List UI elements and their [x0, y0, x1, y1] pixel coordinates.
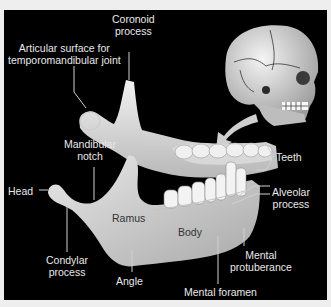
label-body: Body	[178, 226, 202, 238]
label-alveolar-process: Alveolar process	[272, 186, 310, 210]
label-angle: Angle	[116, 275, 143, 287]
label-ramus: Ramus	[112, 212, 145, 224]
label-line: Alveolar	[272, 186, 310, 198]
label-coronoid-process: Coronoid process	[112, 13, 155, 37]
label-articular-surface: Articular surface for temporomandibular …	[8, 42, 121, 66]
label-line: protuberance	[230, 261, 292, 273]
label-line: Condylar	[46, 254, 88, 266]
label-mandibular-notch: Mandibular notch	[64, 138, 116, 162]
label-line: temporomandibular joint	[8, 54, 121, 66]
skull-inset	[225, 25, 318, 126]
mandible-lateral-view	[48, 156, 260, 267]
diagram-panel: Coronoid process Articular surface for t…	[4, 10, 327, 300]
label-condylar-process: Condylar process	[46, 254, 88, 278]
label-line: Articular surface for	[8, 42, 121, 54]
label-line: process	[46, 266, 88, 278]
label-mental-foramen: Mental foramen	[184, 286, 257, 298]
label-line: Mandibular	[64, 138, 116, 150]
label-teeth: Teeth	[276, 151, 302, 163]
label-head: Head	[8, 185, 33, 197]
label-line: Mental	[230, 249, 292, 261]
label-line: process	[112, 25, 155, 37]
label-mental-protuberance: Mental protuberance	[230, 249, 292, 273]
label-line: Coronoid	[112, 13, 155, 25]
label-line: notch	[64, 150, 116, 162]
label-line: process	[272, 198, 310, 210]
